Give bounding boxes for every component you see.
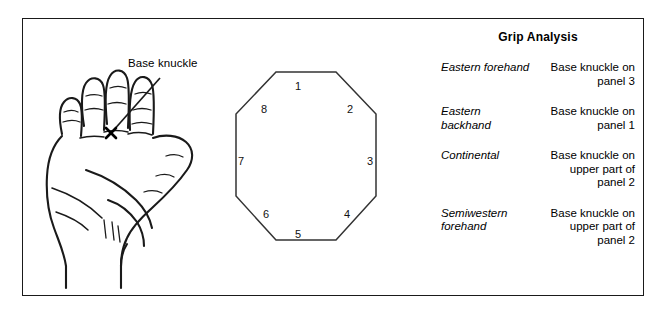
- grip-row: Continental Base knuckle on upper part o…: [441, 149, 635, 190]
- base-knuckle-label: Base knuckle: [128, 57, 198, 69]
- octagon-panel-7: 7: [233, 155, 249, 167]
- grip-row: Eastern forehand Base knuckle on panel 3: [441, 61, 635, 88]
- grip-name: Eastern backhand: [441, 105, 533, 132]
- racket-handle-octagon: 1 2 3 4 5 6 7 8: [228, 62, 384, 267]
- octagon-panel-5: 5: [290, 228, 306, 240]
- x-marker: [106, 128, 116, 138]
- grip-description: Base knuckle on panel 3: [543, 61, 635, 88]
- octagon-shape: [236, 72, 376, 240]
- grip-analysis-table: Grip Analysis Eastern forehand Base knuc…: [441, 30, 635, 264]
- hand-illustration: [26, 52, 226, 290]
- grip-description: Base knuckle on upper part of panel 2: [543, 207, 635, 248]
- octagon-panel-3: 3: [362, 155, 378, 167]
- grip-analysis-title: Grip Analysis: [441, 30, 635, 44]
- octagon-panel-4: 4: [339, 208, 355, 220]
- figure-page: Base knuckle 1 2 3 4 5 6 7 8 Grip Analys…: [0, 0, 665, 316]
- octagon-panel-2: 2: [342, 103, 358, 115]
- grip-description: Base knuckle on panel 1: [543, 105, 635, 132]
- grip-description: Base knuckle on upper part of panel 2: [543, 149, 635, 190]
- grip-name: Eastern forehand: [441, 61, 533, 75]
- grip-row: Semiwestern forehand Base knuckle on upp…: [441, 207, 635, 248]
- octagon-panel-6: 6: [258, 208, 274, 220]
- grip-name: Continental: [441, 149, 533, 163]
- octagon-panel-8: 8: [256, 103, 272, 115]
- grip-name: Semiwestern forehand: [441, 207, 533, 234]
- grip-row: Eastern backhand Base knuckle on panel 1: [441, 105, 635, 132]
- octagon-panel-1: 1: [290, 80, 306, 92]
